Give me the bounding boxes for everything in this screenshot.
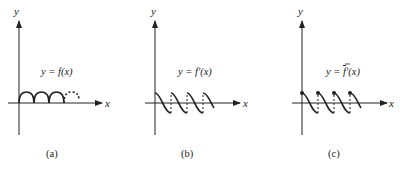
y-axis-label: y — [297, 5, 303, 17]
x-axis-label: x — [242, 97, 248, 109]
x-axis-label: x — [388, 97, 394, 109]
equation-prefix: y = — [325, 66, 343, 77]
caption: (b) — [181, 148, 194, 160]
equation-label: y = f′(x) — [325, 66, 360, 78]
equation-suffix: ′(x) — [346, 66, 360, 78]
caption: (a) — [46, 148, 58, 160]
equation-label: y = f(x) — [40, 66, 73, 78]
y-axis-label: y — [13, 5, 19, 17]
panel-a: y x y = f(x) (a) — [8, 5, 110, 160]
endpoint-dots — [300, 91, 352, 95]
figure-canvas: y x y = f(x) (a) y x y = f′(x) (b) — [0, 0, 400, 169]
caption: (c) — [328, 148, 340, 160]
y-axis-label: y — [150, 5, 156, 17]
curve-f — [19, 92, 79, 103]
panel-c: y x y = f′(x) (c) — [292, 5, 394, 160]
panel-b: y x y = f′(x) (b) — [145, 5, 248, 160]
x-axis-label: x — [104, 97, 110, 109]
equation-label: y = f′(x) — [177, 66, 212, 78]
